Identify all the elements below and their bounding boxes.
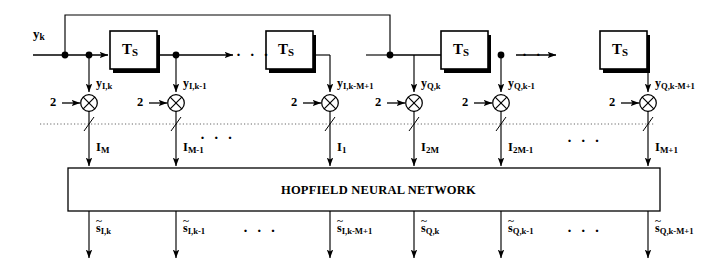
output-label-5: ~sQ,k-1 — [508, 222, 534, 236]
delay-block-4-label: TS — [612, 42, 628, 58]
tap-signal-label-6: yQ,k-M+1 — [655, 77, 695, 91]
multiplier-1 — [81, 95, 98, 112]
current-label-4: I2M — [421, 141, 439, 155]
ellipsis-output-row-i: · · · — [243, 223, 278, 240]
gain-6-label: 2 — [609, 96, 615, 109]
tap-signal-label-3: yI,k-M+1 — [337, 77, 374, 91]
ellipsis-delay-row-q: · · · — [522, 47, 557, 64]
ellipsis-current-row-q: · · · — [567, 133, 602, 150]
hopfield-network-title: HOPFIELD NEURAL NETWORK — [281, 184, 476, 197]
input-signal-label: yk — [33, 27, 45, 42]
multiplier-5 — [493, 95, 510, 112]
domain-separator — [40, 117, 655, 131]
output-label-4: ~sQ,k — [421, 222, 439, 236]
tap-signal-label-5: yQ,k-1 — [508, 77, 535, 91]
ellipsis-delay-row-i: · · · — [236, 47, 271, 64]
tap-signal-label-2: yI,k-1 — [183, 77, 207, 91]
output-label-2: ~sI,k-1 — [183, 222, 205, 236]
tap-signal-label-1: yI,k — [96, 77, 112, 91]
current-label-1: IM — [96, 141, 109, 155]
ellipsis-current-row-i: · · · — [200, 130, 235, 147]
current-input-lines — [89, 111, 648, 166]
multiplier-2 — [168, 95, 185, 112]
block-diagram: yk TS TS TS TS · · · · · · 2 2 2 2 2 2 y… — [0, 0, 715, 276]
gain-1-label: 2 — [50, 96, 56, 109]
ellipsis-output-row-q: · · · — [567, 223, 602, 240]
gain-4-label: 2 — [375, 96, 381, 109]
gain-5-label: 2 — [462, 96, 468, 109]
output-label-1: ~sI,k — [96, 222, 111, 236]
gain-2-label: 2 — [137, 96, 143, 109]
current-label-6: IM+1 — [655, 141, 678, 155]
output-label-6: ~sQ,k-M+1 — [655, 222, 694, 236]
gain-3-label: 2 — [291, 96, 297, 109]
current-label-5: I2M-1 — [508, 141, 533, 155]
multiplier-6 — [640, 95, 657, 112]
output-label-3: ~sI,k-M+1 — [337, 222, 372, 236]
multiplier-4 — [406, 95, 423, 112]
delay-block-2-label: TS — [278, 42, 294, 58]
current-label-3: I1 — [337, 141, 346, 155]
multiplier-nodes — [81, 95, 657, 112]
delay-block-3-label: TS — [453, 42, 469, 58]
delay-block-1-label: TS — [122, 42, 138, 58]
tap-signal-label-4: yQ,k — [421, 77, 441, 91]
multiplier-3 — [322, 95, 339, 112]
